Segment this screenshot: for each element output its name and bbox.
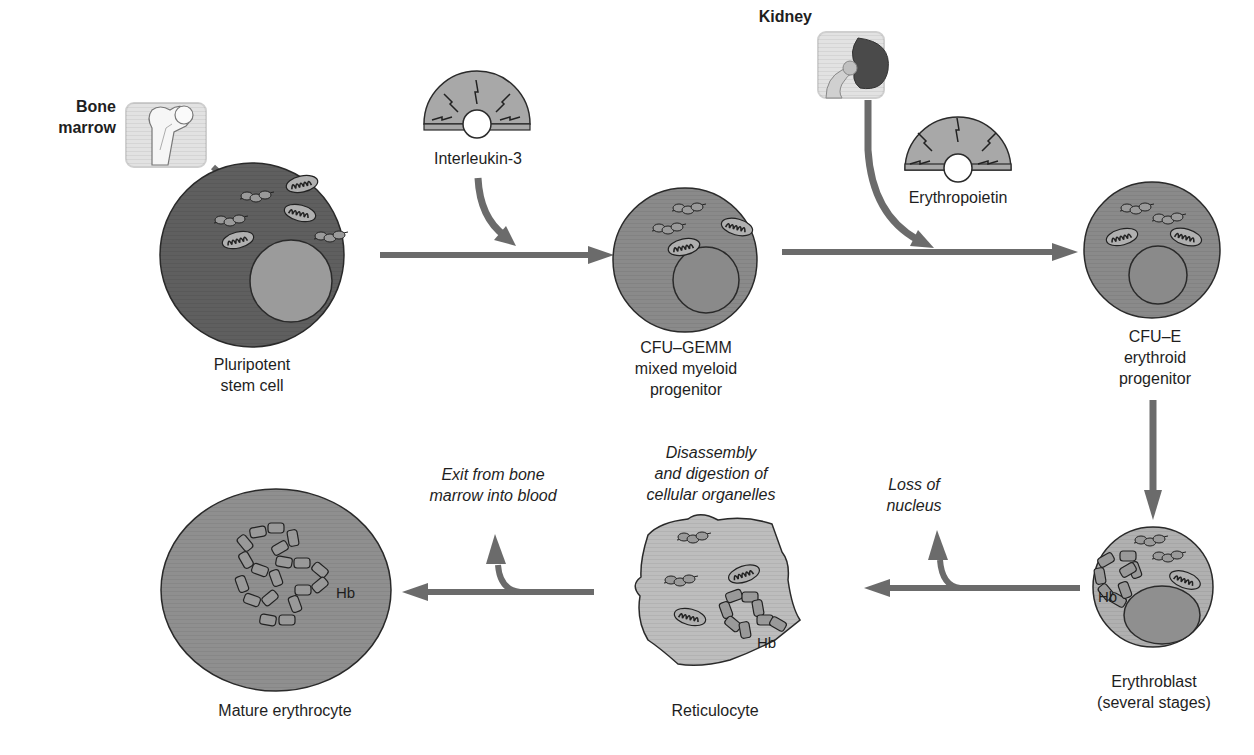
cfu-e-cell — [1084, 182, 1220, 318]
cfu-gemm-cell — [613, 188, 757, 332]
bone-marrow-label-line2: marrow — [40, 117, 116, 138]
process-label-line1: Disassembly — [630, 442, 792, 463]
reticulocyte-label: Reticulocyte — [640, 700, 790, 721]
arrow-to-erythroblast — [1144, 400, 1162, 520]
interleukin-3-label: Interleukin-3 — [420, 148, 536, 169]
femur-bone-icon — [126, 103, 206, 167]
cell-label-line1: Pluripotent — [190, 354, 314, 375]
arrow-to-erythrocyte — [402, 534, 594, 601]
bone-marrow-label: Bone marrow — [40, 96, 116, 138]
disassembly-label: Disassembly and digestion of cellular or… — [630, 442, 792, 505]
process-label-line2: marrow into blood — [418, 485, 568, 506]
erythropoiesis-diagram: Hb Hb — [0, 0, 1254, 755]
pluripotent-stem-cell-label: Pluripotent stem cell — [190, 354, 314, 396]
erythroblast-cell: Hb — [1093, 527, 1213, 647]
pluripotent-stem-cell — [160, 163, 348, 347]
cell-label-line1: CFU–GEMM — [620, 337, 752, 358]
mature-erythrocyte-cell: Hb — [161, 489, 391, 691]
cfu-e-label: CFU–E erythroid progenitor — [1100, 326, 1210, 389]
arrow-to-reticulocyte — [864, 530, 1080, 597]
cell-label-line1: CFU–E — [1100, 326, 1210, 347]
mature-erythrocyte-label: Mature erythrocyte — [190, 700, 380, 721]
cell-label-line3: progenitor — [1100, 368, 1210, 389]
reticulocyte-cell: Hb — [635, 515, 800, 666]
cell-label-line2: stem cell — [190, 375, 314, 396]
cfu-gemm-label: CFU–GEMM mixed myeloid progenitor — [620, 337, 752, 400]
kidney-label-text: Kidney — [740, 6, 812, 27]
cell-label-line1: Erythroblast — [1088, 671, 1220, 692]
process-label-line2: nucleus — [876, 495, 952, 516]
exit-into-blood-label: Exit from bone marrow into blood — [418, 464, 568, 506]
kidney-curved-arrow — [868, 100, 934, 248]
process-label-line1: Loss of — [876, 474, 952, 495]
process-label-line2: and digestion of — [630, 463, 792, 484]
erythropoietin-label: Erythropoietin — [898, 187, 1018, 208]
kidney-icon — [818, 32, 888, 98]
interleukin-curved-arrow — [478, 178, 516, 246]
interleukin-3-signal-icon — [424, 71, 530, 138]
erythroblast-label: Erythroblast (several stages) — [1088, 671, 1220, 713]
erythropoietin-signal-icon — [905, 117, 1011, 182]
svg-text:Hb: Hb — [336, 584, 355, 601]
process-label-line1: Exit from bone — [418, 464, 568, 485]
cell-label-line2: mixed myeloid — [620, 358, 752, 379]
svg-text:Hb: Hb — [1098, 588, 1117, 605]
loss-of-nucleus-label: Loss of nucleus — [876, 474, 952, 516]
cell-label-line3: progenitor — [620, 379, 752, 400]
kidney-label: Kidney — [740, 6, 812, 27]
cell-label-line2: (several stages) — [1088, 692, 1220, 713]
bone-marrow-label-line1: Bone — [40, 96, 116, 117]
svg-text:Hb: Hb — [757, 634, 776, 651]
arrow-to-cfu-gemm — [380, 246, 614, 264]
cell-label-line2: erythroid — [1100, 347, 1210, 368]
process-label-line3: cellular organelles — [630, 484, 792, 505]
